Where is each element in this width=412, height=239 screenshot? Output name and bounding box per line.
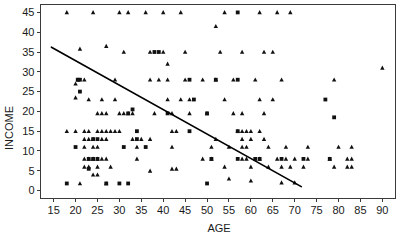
data-point-triangle: [266, 145, 270, 149]
data-point-triangle: [249, 165, 253, 169]
data-point-triangle: [130, 111, 134, 115]
data-point-triangle: [139, 137, 143, 141]
data-point-triangle: [126, 10, 130, 14]
data-point-triangle: [148, 50, 152, 54]
data-point-triangle: [284, 157, 288, 161]
data-point-triangle: [65, 10, 69, 14]
data-point-triangle: [306, 157, 310, 161]
data-point-square: [236, 11, 240, 15]
x-tick-label: 70: [289, 204, 301, 216]
x-tick-label: 20: [69, 204, 81, 216]
data-point-triangle: [349, 145, 353, 149]
y-tick-label: 30: [22, 66, 34, 78]
data-point-triangle: [100, 129, 104, 133]
data-point-triangle: [240, 111, 244, 115]
data-point-triangle: [244, 129, 248, 133]
axis-frame: [41, 5, 396, 199]
data-point-square: [205, 111, 209, 115]
data-point-triangle: [95, 129, 99, 133]
x-tick-label: 55: [223, 204, 235, 216]
data-point-triangle: [65, 129, 69, 133]
y-tick-label: 0: [28, 184, 34, 196]
data-point-triangle: [244, 145, 248, 149]
data-point-triangle: [91, 145, 95, 149]
data-point-square: [153, 50, 157, 54]
data-point-triangle: [117, 111, 121, 115]
data-point-triangle: [257, 10, 261, 14]
data-point-triangle: [200, 157, 204, 161]
data-point-square: [135, 129, 139, 133]
data-point-triangle: [87, 97, 91, 101]
data-point-square: [122, 145, 126, 149]
data-point-square: [91, 157, 95, 161]
data-point-triangle: [104, 111, 108, 115]
data-point-triangle: [332, 77, 336, 81]
data-point-triangle: [122, 50, 126, 54]
data-point-triangle: [135, 145, 139, 149]
data-point-triangle: [222, 165, 226, 169]
y-tick-label: 45: [22, 6, 34, 18]
data-point-triangle: [82, 137, 86, 141]
y-tick-label: 5: [28, 165, 34, 177]
data-point-square: [236, 129, 240, 133]
data-point-square: [192, 98, 196, 102]
data-point-triangle: [345, 157, 349, 161]
data-point-square: [302, 157, 306, 161]
x-tick-label: 60: [245, 204, 257, 216]
x-axis-ticks: 15202530354045505560657075808590: [48, 199, 389, 216]
data-point-triangle: [78, 181, 82, 185]
data-point-triangle: [249, 178, 253, 182]
data-point-triangle: [240, 157, 244, 161]
data-point-triangle: [108, 129, 112, 133]
data-point-square: [236, 78, 240, 82]
data-point-triangle: [349, 165, 353, 169]
data-point-triangle: [218, 50, 222, 54]
y-axis-title: INCOME: [3, 106, 15, 150]
data-point-triangle: [100, 157, 104, 161]
y-tick-label: 25: [22, 85, 34, 97]
data-point-triangle: [288, 10, 292, 14]
data-point-triangle: [170, 145, 174, 149]
data-point-triangle: [148, 137, 152, 141]
data-point-square: [205, 182, 209, 186]
plot-frame: [41, 5, 396, 199]
data-point-triangle: [73, 129, 77, 133]
data-point-triangle: [148, 168, 152, 172]
data-point-triangle: [161, 10, 165, 14]
data-point-triangle: [240, 50, 244, 54]
data-point-square: [96, 157, 100, 161]
x-tick-label: 45: [179, 204, 191, 216]
data-point-square: [214, 78, 218, 82]
data-point-triangle: [349, 157, 353, 161]
data-point-triangle: [130, 137, 134, 141]
plot-canvas: 051015202530354045 152025303540455055606…: [0, 0, 412, 239]
data-point-triangle: [187, 97, 191, 101]
data-point-square: [188, 129, 192, 133]
data-point-triangle: [95, 172, 99, 176]
data-point-triangle: [275, 157, 279, 161]
data-point-square: [258, 157, 262, 161]
data-point-triangle: [279, 180, 283, 184]
data-point-triangle: [257, 97, 261, 101]
data-point-triangle: [117, 10, 121, 14]
x-tick-label: 25: [91, 204, 103, 216]
data-point-triangle: [73, 81, 77, 85]
data-point-triangle: [104, 44, 108, 48]
data-point-triangle: [275, 10, 279, 14]
data-point-triangle: [183, 50, 187, 54]
data-point-triangle: [113, 97, 117, 101]
data-point-triangle: [262, 137, 266, 141]
data-point-square: [65, 182, 69, 186]
data-point-triangle: [301, 165, 305, 169]
scatter-chart: 051015202530354045 152025303540455055606…: [0, 0, 412, 239]
data-point-square: [91, 137, 95, 141]
x-tick-label: 15: [48, 204, 60, 216]
data-point-square: [131, 108, 135, 112]
data-point-square: [87, 157, 91, 161]
data-point-square: [87, 167, 91, 171]
data-point-triangle: [249, 137, 253, 141]
data-point-triangle: [170, 129, 174, 133]
data-point-triangle: [91, 10, 95, 14]
data-point-triangle: [209, 145, 213, 149]
data-point-triangle: [279, 165, 283, 169]
